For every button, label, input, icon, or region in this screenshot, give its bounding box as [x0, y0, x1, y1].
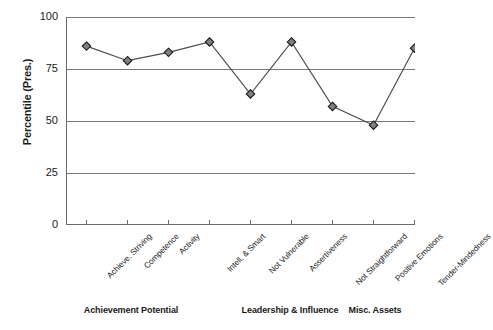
x-label-not-vulnerable: Not Vulnerable: [267, 232, 310, 275]
x-label-intell-smart: Intell. & Smart: [226, 232, 268, 274]
x-label-achieve-striving: Achieve. Striving: [105, 232, 153, 280]
data-point-marker: [369, 121, 377, 129]
data-series-markers: [82, 38, 415, 130]
x-axis-category-labels: Achieve. Striving Competence Activity In…: [0, 226, 429, 296]
x-label-assertiveness: Assertiveness: [308, 232, 349, 273]
group-label-achievement-potential: Achievement Potential: [41, 305, 221, 315]
plot-area: [66, 17, 414, 225]
y-tick-label-25: 25: [28, 167, 58, 178]
data-point-marker: [164, 48, 172, 56]
y-tick-label-75: 75: [28, 63, 58, 74]
data-point-marker: [82, 42, 90, 50]
data-point-marker: [410, 44, 415, 52]
x-label-tender-mindedness: Tender-Mindedness: [437, 232, 493, 288]
y-tick-label-100: 100: [28, 11, 58, 22]
data-point-marker: [328, 102, 336, 110]
group-label-misc-assets: Misc. Assets: [320, 305, 430, 315]
gridlines: [67, 18, 415, 174]
data-point-marker: [123, 56, 131, 64]
chart-canvas: [67, 17, 415, 225]
x-axis-group-labels: Achievement Potential Leadership & Influ…: [0, 305, 429, 325]
y-tick-label-50: 50: [28, 115, 58, 126]
data-series-line: [87, 42, 415, 125]
x-axis-ticks: [87, 220, 415, 225]
x-label-activity: Activity: [177, 232, 201, 256]
